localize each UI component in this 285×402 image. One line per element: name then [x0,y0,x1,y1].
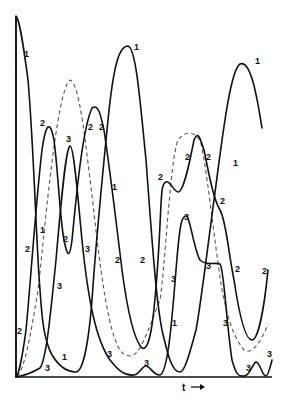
label-curve-2: 2 [220,196,225,206]
label-curve-1: 1 [40,225,45,235]
label-curve-3: 3 [246,363,251,373]
label-curve-3: 3 [45,363,50,373]
label-curve-3: 3 [85,244,90,254]
chart-figure: 1 1 1 1 1 1 1 1 2 2 2 2 2 2 2 2 2 2 2 2 … [0,0,285,402]
x-axis-label: t [182,382,186,393]
label-curve-2: 2 [88,122,93,132]
label-curve-1: 1 [24,49,29,59]
label-curve-2: 2 [235,264,240,274]
label-curve-1: 1 [172,318,177,328]
label-curve-2: 2 [25,244,30,254]
label-curve-2: 2 [262,266,267,276]
label-curve-3: 3 [66,134,71,144]
label-curve-3: 3 [206,261,211,271]
label-curve-1: 1 [112,182,117,192]
label-curve-3: 3 [144,358,149,368]
line-chart: 1 1 1 1 1 1 1 1 2 2 2 2 2 2 2 2 2 2 2 2 … [0,0,285,402]
label-curve-3: 3 [57,281,62,291]
label-curve-2: 2 [99,122,104,132]
label-curve-2: 2 [158,172,163,182]
label-curve-1: 1 [134,42,139,52]
label-curve-3: 3 [171,274,176,284]
label-curve-3: 3 [267,349,272,359]
label-curve-2: 2 [140,255,145,265]
label-curve-2: 2 [206,152,211,162]
label-curve-3: 3 [223,318,228,328]
label-curve-1: 1 [255,56,260,66]
label-curve-1: 1 [62,352,67,362]
label-curve-2: 2 [63,234,68,244]
label-curve-2: 2 [40,118,45,128]
x-axis-arrow-icon [200,384,205,390]
label-curve-3: 3 [107,349,112,359]
label-curve-2: 2 [115,255,120,265]
label-curve-2: 2 [17,326,22,336]
label-curve-3: 3 [184,212,189,222]
label-curve-1: 1 [233,158,238,168]
label-curve-2: 2 [185,152,190,162]
